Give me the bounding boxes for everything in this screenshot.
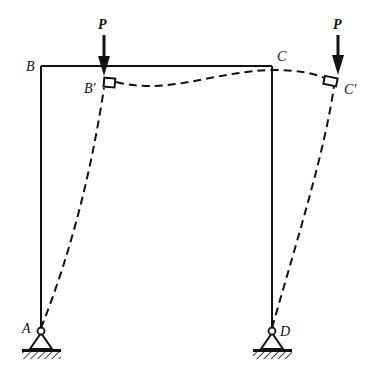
deflected-shape <box>41 70 334 328</box>
label-B: B <box>26 59 35 74</box>
load-arrow-left <box>98 35 110 76</box>
frame-diagram: P P B B′ C C′ A D <box>0 0 377 378</box>
joint-B-prime-marker <box>104 78 116 88</box>
label-D: D <box>279 324 290 339</box>
load-label-left: P <box>98 17 107 32</box>
deflected-column-right <box>272 86 334 328</box>
joint-C-prime-marker <box>323 76 337 87</box>
label-C-prime: C′ <box>344 82 357 97</box>
load-arrow-right <box>332 35 344 75</box>
label-C: C <box>277 49 287 64</box>
original-frame <box>41 66 272 327</box>
load-label-right: P <box>333 17 342 32</box>
deflected-beam <box>116 70 324 86</box>
label-B-prime: B′ <box>84 81 97 96</box>
label-A: A <box>21 321 31 336</box>
arrow-down-icon <box>332 55 344 75</box>
deflected-column-left <box>41 88 104 328</box>
